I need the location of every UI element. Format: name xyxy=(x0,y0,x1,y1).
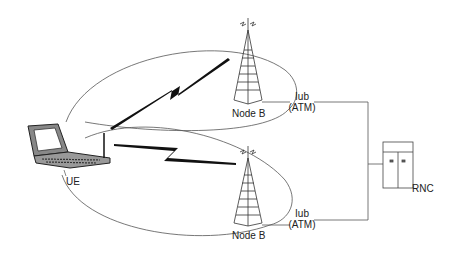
coverage-ellipse-bottom xyxy=(62,127,292,236)
rnc-cabinet-icon xyxy=(383,142,413,188)
node-b-top-label: Node B xyxy=(232,108,265,119)
iub-bottom-line1: Iub xyxy=(288,208,316,219)
radio-link-bolt-bottom-icon xyxy=(114,144,236,165)
laptop-ue-icon xyxy=(28,124,110,168)
iub-connection-lines xyxy=(262,102,383,225)
radio-link-bolt-top-icon xyxy=(110,58,230,130)
iub-top-line1: Iub xyxy=(288,91,316,102)
iub-top-line2: (ATM) xyxy=(288,102,316,113)
network-diagram xyxy=(0,0,457,266)
node-b-bottom-label: Node B xyxy=(232,230,265,241)
rnc-label: RNC xyxy=(412,183,434,194)
ue-label: UE xyxy=(66,176,80,187)
tower-top-icon xyxy=(234,18,262,104)
iub-top-label: Iub (ATM) xyxy=(288,91,316,113)
iub-bottom-line2: (ATM) xyxy=(288,219,316,230)
iub-bottom-label: Iub (ATM) xyxy=(288,208,316,230)
